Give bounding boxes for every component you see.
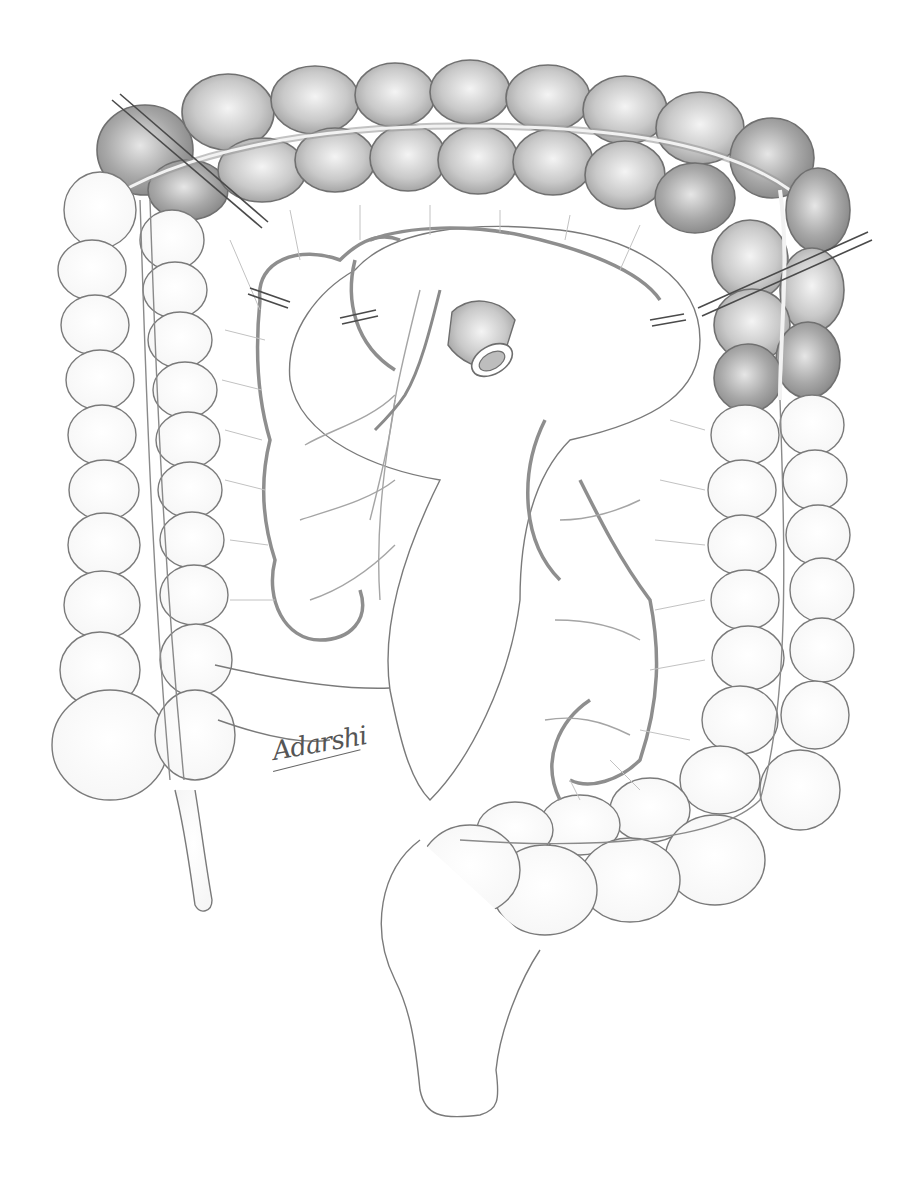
ascending-colon: [52, 172, 235, 911]
colon-illustration: [0, 0, 913, 1179]
transverse-colon: [97, 60, 814, 233]
